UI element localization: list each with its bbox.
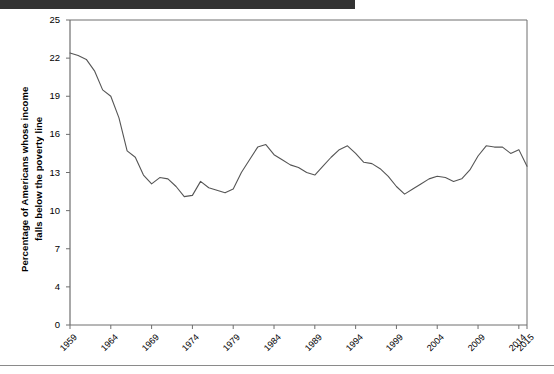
page-canvas: Percentage of Americans whose income fal… [0,0,554,374]
y-tick-label: 10 [38,206,60,216]
y-tick-label: 22 [38,53,60,63]
poverty-rate-line-chart: Percentage of Americans whose income fal… [0,9,554,365]
plot-area: 252219161310740 195919641969197419791984… [0,9,554,365]
axes [70,20,527,325]
x-axis-ticks [70,325,527,329]
series-line-poverty-rate [70,53,527,197]
page-header-bar [0,0,355,9]
page-footer-rule [0,365,554,366]
y-tick-label: 25 [38,15,60,25]
plot-svg [0,9,554,365]
y-tick-label: 13 [38,168,60,178]
y-tick-label: 19 [38,91,60,101]
y-tick-label: 7 [38,244,60,254]
y-tick-label: 4 [38,282,60,292]
y-tick-label: 16 [38,129,60,139]
y-tick-label: 0 [38,320,60,330]
